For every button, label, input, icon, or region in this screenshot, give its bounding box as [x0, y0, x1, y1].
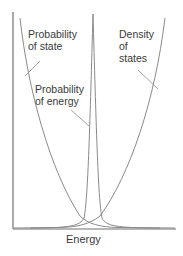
probability-of-energy-leader — [71, 110, 89, 126]
energy-distribution-diagram: Probability of state Density of states P… — [0, 0, 183, 256]
x-axis-label: Energy — [66, 233, 101, 245]
density-of-states-label: Density of states — [119, 28, 154, 64]
probability-of-energy-label: Probability of energy — [35, 83, 84, 107]
probability-of-state-label: Probability of state — [28, 28, 77, 52]
